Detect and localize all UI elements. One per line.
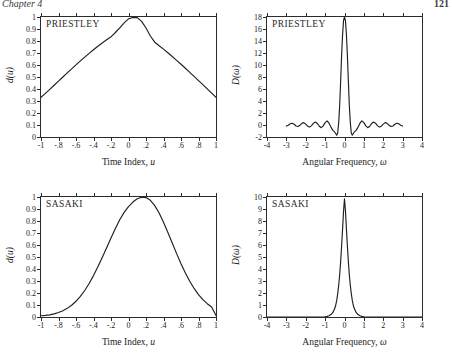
y-tick-mark	[263, 65, 267, 66]
x-tick-mark-top	[181, 193, 182, 197]
x-tick-mark-top	[181, 13, 182, 17]
y-tick-mark	[263, 77, 267, 78]
y-tick-mark	[37, 293, 41, 294]
x-tick-mark-top	[94, 193, 95, 197]
x-tick-mark-top	[306, 13, 307, 17]
y-tick-mark	[37, 65, 41, 66]
y-tick-mark	[37, 101, 41, 102]
x-tick-mark-top	[164, 13, 165, 17]
y-tick-mark	[37, 233, 41, 234]
x-tick-label: 1	[362, 141, 366, 150]
x-tick-label: -4	[264, 321, 271, 330]
y-tick-mark	[37, 257, 41, 258]
x-tick-mark-top	[325, 13, 326, 17]
x-tick-mark-top	[325, 193, 326, 197]
x-tick-label: -.2	[107, 141, 116, 150]
x-tick-label: -.4	[89, 141, 98, 150]
x-tick-mark-top	[422, 193, 423, 197]
x-tick-mark	[286, 137, 287, 141]
y-tick-label: 1	[10, 13, 36, 22]
x-tick-label: 2	[381, 321, 385, 330]
x-tick-label: .8	[196, 141, 202, 150]
x-tick-label: 3	[401, 141, 405, 150]
y-tick-mark	[263, 221, 267, 222]
y-tick-mark	[263, 125, 267, 126]
y-tick-mark	[37, 209, 41, 210]
x-tick-mark	[59, 317, 60, 321]
x-tick-label: -1	[38, 321, 45, 330]
x-tick-mark-top	[383, 13, 384, 17]
x-tick-mark-top	[76, 193, 77, 197]
x-tick-mark	[199, 317, 200, 321]
x-tick-mark	[345, 137, 346, 141]
y-tick-mark	[263, 53, 267, 54]
x-tick-mark-top	[129, 13, 130, 17]
x-axis-label-sasaki-lag: Time Index, u	[40, 337, 217, 347]
y-tick-label: 0.9	[10, 25, 36, 34]
panel-label-priestley-lag: PRIESTLEY	[46, 19, 100, 29]
x-tick-label: 4	[420, 141, 424, 150]
x-tick-mark	[403, 317, 404, 321]
x-tick-mark-top	[146, 13, 147, 17]
x-tick-mark	[267, 137, 268, 141]
x-tick-mark	[403, 137, 404, 141]
x-tick-mark	[111, 317, 112, 321]
y-tick-mark	[263, 209, 267, 210]
y-tick-mark	[263, 245, 267, 246]
y-tick-mark	[263, 257, 267, 258]
x-tick-mark	[216, 317, 217, 321]
y-tick-mark	[37, 305, 41, 306]
x-tick-label: 0	[127, 141, 131, 150]
y-tick-mark	[263, 101, 267, 102]
x-tick-mark	[325, 317, 326, 321]
y-tick-mark	[37, 125, 41, 126]
header-chapter-label: Chapter 4	[2, 0, 42, 9]
x-tick-mark-top	[41, 13, 42, 17]
page-header: Chapter 4 121	[0, 0, 452, 10]
y-tick-label: 0	[10, 133, 36, 142]
x-tick-mark-top	[59, 193, 60, 197]
x-tick-label: -2	[302, 321, 309, 330]
x-tick-mark-top	[76, 13, 77, 17]
y-tick-label: 0	[236, 313, 262, 322]
y-tick-label: 0	[236, 121, 262, 130]
x-tick-label: .4	[161, 321, 167, 330]
y-tick-mark	[37, 29, 41, 30]
x-tick-mark	[164, 317, 165, 321]
x-tick-label: -3	[283, 141, 290, 150]
x-tick-mark	[111, 137, 112, 141]
x-tick-mark-top	[59, 13, 60, 17]
x-tick-label: -.2	[107, 321, 116, 330]
x-tick-label: 2	[381, 141, 385, 150]
x-tick-label: -3	[283, 321, 290, 330]
panel-label-sasaki-spectral: SASAKI	[272, 199, 309, 209]
y-tick-mark	[263, 233, 267, 234]
x-tick-mark	[41, 317, 42, 321]
x-tick-mark	[129, 317, 130, 321]
x-tick-mark	[164, 137, 165, 141]
x-axis-label-text-priestley-lag: Time Index,	[102, 157, 150, 167]
plot-area-sasaki-spectral	[266, 196, 423, 318]
y-tick-label: 1	[10, 193, 36, 202]
y-tick-mark	[263, 89, 267, 90]
x-tick-mark	[364, 137, 365, 141]
curve-priestley-lag	[41, 17, 216, 137]
x-tick-mark-top	[146, 193, 147, 197]
x-tick-mark	[146, 137, 147, 141]
curve-sasaki-lag	[41, 197, 216, 317]
x-tick-label: -2	[302, 141, 309, 150]
x-tick-mark-top	[111, 193, 112, 197]
y-tick-label: 0.8	[10, 37, 36, 46]
y-tick-mark	[37, 269, 41, 270]
y-tick-mark	[263, 281, 267, 282]
y-tick-mark	[37, 281, 41, 282]
x-tick-mark-top	[267, 193, 268, 197]
x-axis-label-symbol-priestley-lag: u	[150, 157, 155, 167]
x-axis-label-sasaki-spectral: Angular Frequency, ω	[266, 337, 423, 347]
x-tick-mark-top	[216, 193, 217, 197]
x-tick-mark	[267, 317, 268, 321]
x-axis-label-text-sasaki-spectral: Angular Frequency,	[302, 337, 380, 347]
x-tick-mark	[94, 317, 95, 321]
y-tick-mark	[37, 53, 41, 54]
y-tick-label: 10	[236, 193, 262, 202]
